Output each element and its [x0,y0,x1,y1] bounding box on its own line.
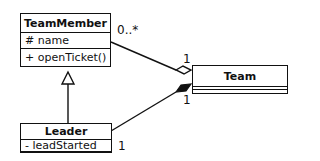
composition-filled-diamond-icon [176,84,191,92]
composition-line [111,92,176,131]
aggregation-line [111,42,176,70]
class-leader[interactable]: Leader - leadStarted [20,123,112,153]
multiplicity-team-composition: 1 [183,94,191,106]
multiplicity-leader: 1 [118,140,126,152]
class-name: Team [193,66,287,86]
class-teammember[interactable]: TeamMember # name + openTicket() [20,13,111,67]
multiplicity-teammember: 0..* [117,24,138,36]
attribute: # name [21,32,110,48]
operation-compartment [193,89,287,92]
multiplicity-team-aggregation: 1 [183,53,191,65]
aggregation-hollow-diamond-icon [176,66,191,74]
generalization-triangle-icon [62,72,74,84]
class-name: TeamMember [21,14,110,32]
operation: + openTicket() [21,48,110,65]
attribute: - leadStarted [21,139,111,151]
class-name: Leader [21,124,111,139]
class-team[interactable]: Team [192,65,288,94]
